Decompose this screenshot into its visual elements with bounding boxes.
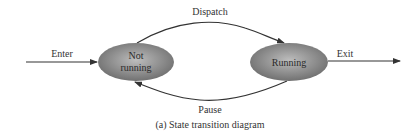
dispatch-label: Dispatch: [192, 6, 228, 17]
dispatch-arrow: [137, 22, 284, 43]
state-not-running: Not running: [98, 43, 174, 81]
pause-arrow: [135, 81, 287, 100]
enter-label: Enter: [51, 48, 73, 59]
diagram-caption: (a) State transition diagram: [155, 119, 264, 131]
state-not-running-label-line1: Not: [129, 50, 144, 61]
state-transition-diagram: Enter Dispatch Pause Exit Not running Ru…: [0, 0, 420, 140]
state-running-label: Running: [272, 57, 306, 68]
exit-label: Exit: [337, 48, 354, 59]
state-running: Running: [250, 43, 328, 81]
pause-label: Pause: [198, 104, 222, 115]
state-not-running-label-line2: running: [120, 62, 151, 73]
